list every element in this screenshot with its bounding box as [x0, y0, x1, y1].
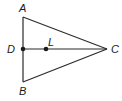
- label-l: L: [48, 36, 54, 48]
- label-c: C: [111, 43, 119, 55]
- segment-bc: [23, 49, 107, 82]
- label-b: B: [19, 85, 26, 97]
- label-a: A: [18, 2, 26, 14]
- segment-ac: [23, 17, 107, 49]
- label-d: D: [7, 43, 15, 55]
- point-d-dot: [21, 47, 26, 52]
- triangle-diagram: A D L C B: [0, 0, 122, 101]
